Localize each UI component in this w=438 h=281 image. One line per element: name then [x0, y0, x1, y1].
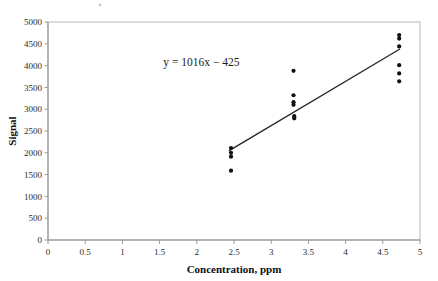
- data-point: [229, 169, 233, 173]
- data-point: [229, 151, 233, 155]
- chart-background: [0, 0, 438, 281]
- data-point: [397, 63, 401, 67]
- data-point: [397, 79, 401, 83]
- chart-canvas: 0500100015002000250030003500400045005000…: [0, 0, 438, 281]
- scan-speck: [99, 4, 102, 7]
- x-tick-label: 0: [46, 247, 51, 257]
- scatter-chart: 0500100015002000250030003500400045005000…: [0, 0, 438, 281]
- x-tick-label: 3.5: [303, 247, 315, 257]
- y-tick-label: 500: [29, 213, 43, 223]
- data-point: [291, 69, 295, 73]
- x-axis-title: Concentration, ppm: [187, 263, 282, 275]
- y-tick-label: 1000: [24, 192, 43, 202]
- y-tick-label: 3000: [24, 104, 43, 114]
- data-point: [397, 71, 401, 75]
- y-tick-label: 1500: [24, 170, 43, 180]
- x-tick-label: 4: [343, 247, 348, 257]
- y-tick-label: 0: [38, 235, 43, 245]
- data-point: [291, 93, 295, 97]
- y-tick-label: 2500: [24, 126, 43, 136]
- x-tick-label: 0.5: [80, 247, 92, 257]
- x-tick-label: 5: [418, 247, 423, 257]
- y-tick-label: 3500: [24, 83, 43, 93]
- x-tick-label: 3: [269, 247, 274, 257]
- regression-equation-label: y = 1016x − 425: [163, 56, 239, 69]
- x-tick-label: 2.5: [228, 247, 240, 257]
- data-point: [397, 44, 401, 48]
- data-point: [229, 155, 233, 159]
- x-tick-label: 1: [120, 247, 125, 257]
- data-point: [229, 146, 233, 150]
- y-tick-label: 5000: [24, 17, 43, 27]
- x-tick-label: 4.5: [377, 247, 389, 257]
- x-tick-label: 1.5: [154, 247, 166, 257]
- y-tick-label: 4500: [24, 39, 43, 49]
- y-tick-label: 4000: [24, 61, 43, 71]
- y-axis-title: Signal: [6, 116, 18, 145]
- y-tick-label: 2000: [24, 148, 43, 158]
- x-tick-label: 2: [195, 247, 200, 257]
- data-point: [397, 36, 401, 40]
- data-point: [291, 103, 295, 107]
- data-point: [292, 116, 296, 120]
